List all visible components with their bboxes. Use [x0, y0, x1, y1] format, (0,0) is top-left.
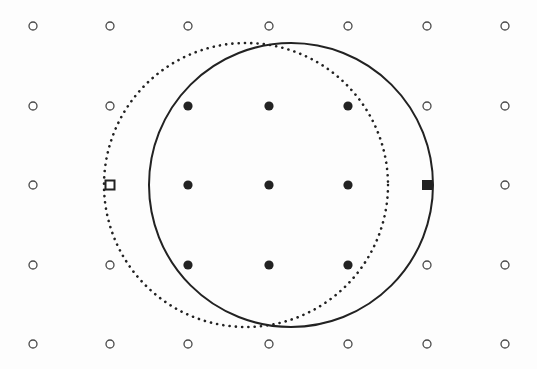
filled-circle-point [264, 180, 273, 189]
open-circle-point [29, 340, 37, 348]
filled-circle-point [264, 260, 273, 269]
open-circle-point [423, 261, 431, 269]
filled-circle-point [343, 260, 352, 269]
open-circle-point [106, 340, 114, 348]
open-circle-point [265, 22, 273, 30]
filled-circle-point [183, 101, 192, 110]
open-circle-point [106, 261, 114, 269]
filled-square-point [422, 180, 432, 190]
lattice-diagram [0, 0, 537, 369]
filled-circle-point [183, 260, 192, 269]
filled-circle-point [343, 101, 352, 110]
open-circle-point [344, 340, 352, 348]
open-circle-point [29, 22, 37, 30]
open-circle-point [423, 340, 431, 348]
open-circle-point [423, 102, 431, 110]
filled-circle-point [264, 101, 273, 110]
open-circle-point [501, 22, 509, 30]
filled-circle-point [183, 180, 192, 189]
open-circle-point [501, 261, 509, 269]
filled-circle-point [343, 180, 352, 189]
open-circle-point [344, 22, 352, 30]
open-circle-point [184, 22, 192, 30]
open-square-point [106, 181, 115, 190]
open-circle-point [106, 102, 114, 110]
open-circle-point [29, 102, 37, 110]
open-circle-point [423, 22, 431, 30]
open-circle-point [501, 102, 509, 110]
open-circle-point [29, 181, 37, 189]
open-circle-point [265, 340, 273, 348]
open-circle-point [106, 22, 114, 30]
open-circle-point [29, 261, 37, 269]
open-circle-point [501, 181, 509, 189]
open-circle-point [184, 340, 192, 348]
grid-points-layer [29, 22, 509, 348]
open-circle-point [501, 340, 509, 348]
diagram-canvas [0, 0, 537, 369]
